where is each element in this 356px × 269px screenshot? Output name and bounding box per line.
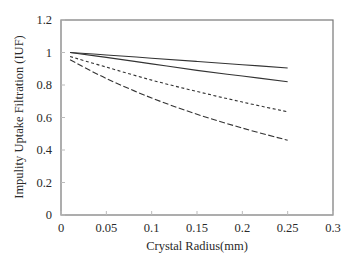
y-tick-label: 0.4 [36,143,52,157]
y-tick-label: 0.2 [36,176,52,190]
x-tick-label: 0.3 [325,221,341,235]
series-line-curve-3 [70,57,288,112]
x-tick-label: 0.1 [144,221,160,235]
y-tick-label: 1.2 [36,13,52,27]
line-chart: 00.20.40.60.811.2 00.050.10.150.20.250.3… [0,0,356,269]
x-tick-label: 0 [58,221,64,235]
series-line-curve-4 [70,60,288,140]
data-series [70,53,288,141]
plot-area-frame [61,20,333,215]
y-axis-title: Impulity Uptake Filtration (IUF) [12,35,26,199]
y-tick-label: 0.8 [36,78,52,92]
x-tick-label: 0.25 [277,221,299,235]
y-tick-label: 0.6 [36,111,52,125]
chart-canvas: 00.20.40.60.811.2 00.050.10.150.20.250.3… [0,0,356,269]
y-tick-label: 1 [46,46,52,60]
x-tick-label: 0.05 [95,221,117,235]
x-tick-label: 0.15 [186,221,208,235]
x-axis-title: Crystal Radius(mm) [146,239,248,253]
x-tick-label: 0.2 [235,221,251,235]
y-tick-label: 0 [46,208,52,222]
